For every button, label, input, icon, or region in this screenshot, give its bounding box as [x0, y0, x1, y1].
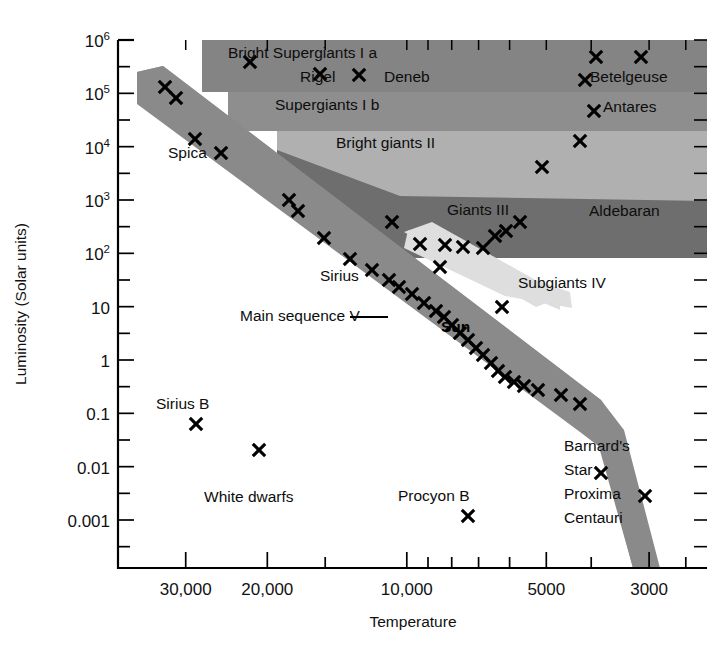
y-tick-label: 10 [91, 299, 110, 318]
x-tick-label: 10,000 [381, 580, 433, 599]
x-ticklabel-layer: 30,00020,00010,00050003000 [160, 580, 668, 599]
x-tick-label: 30,000 [160, 580, 212, 599]
y-tick-label: 102 [85, 243, 110, 264]
y-tick-label: 103 [85, 190, 110, 211]
annotation-deneb: Deneb [384, 68, 430, 85]
annotation-sirius: Sirius [320, 267, 359, 284]
annotation-bright-giants-ii: Bright giants II [336, 134, 435, 151]
annotation-bright-supergiants-ia: Bright Supergiants I a [228, 44, 377, 61]
annotation-aldebaran: Aldebaran [589, 202, 660, 219]
hr-diagram-figure: Bright Supergiants I aRigelDenebBetelgeu… [0, 0, 707, 662]
annotation-barnards: Barnard's [564, 437, 630, 454]
annotation-sun: Sun [441, 318, 470, 335]
hr-diagram-canvas: Bright Supergiants I aRigelDenebBetelgeu… [0, 0, 707, 662]
annotation-white-dwarfs: White dwarfs [204, 488, 294, 505]
x-tick-label: 20,000 [241, 580, 293, 599]
y-tick-label: 0.01 [77, 459, 110, 478]
annotation-sirius-b: Sirius B [156, 395, 209, 412]
x-axis-title: Temperature [369, 613, 456, 630]
y-tick-label: 0.001 [67, 512, 110, 531]
annotation-star: Star [564, 461, 592, 478]
y-tick-label: 105 [85, 83, 110, 104]
annotation-supergiants-ib: Supergiants I b [275, 96, 379, 113]
annotation-antares: Antares [603, 98, 657, 115]
y-ticklabel-layer: 1061051041031021010.10.010.001 [67, 30, 110, 531]
annotation-rigel: Rigel [300, 68, 335, 85]
y-tick-label: 1 [101, 352, 110, 371]
x-tick-label: 3000 [630, 580, 668, 599]
annotation-betelgeuse: Betelgeuse [590, 68, 668, 85]
y-axis-title: Luminosity (Solar units) [12, 223, 29, 385]
annotation-spica: Spica [168, 144, 207, 161]
x-tick-label: 5000 [527, 580, 565, 599]
annotation-centauri: Centauri [564, 509, 623, 526]
y-tick-label: 106 [85, 30, 110, 51]
annotation-main-sequence-v: Main sequence V [240, 307, 360, 324]
y-tick-label: 104 [85, 137, 111, 158]
y-tick-label: 0.1 [86, 405, 110, 424]
annotation-subgiants-iv: Subgiants IV [518, 274, 607, 291]
annotation-procyon-b: Procyon B [398, 487, 470, 504]
annotation-giants-iii: Giants III [447, 201, 509, 218]
annotation-proxima: Proxima [564, 485, 621, 502]
